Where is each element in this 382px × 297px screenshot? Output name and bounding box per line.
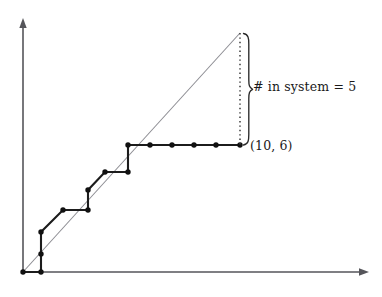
arrival-rate-line: [23, 33, 240, 272]
marker-dot-2: [38, 251, 43, 256]
marker-dot-1: [38, 269, 43, 274]
marker-dot-12: [191, 142, 196, 147]
marker-dot-13: [213, 142, 218, 147]
departure-step-path: [23, 145, 240, 272]
x-axis-arrow-icon: [359, 268, 369, 275]
marker-dot-6: [85, 187, 90, 192]
queueing-diagram-figure: # in system = 5 (10, 6): [0, 0, 382, 297]
curly-brace-icon: [244, 34, 253, 146]
marker-dot-4: [60, 207, 65, 212]
marker-origin: [20, 269, 25, 274]
marker-dot-5: [85, 207, 90, 212]
marker-dot-10: [147, 142, 152, 147]
event-markers-group: [20, 142, 242, 274]
endpoint-coordinate-label: (10, 6): [250, 138, 293, 153]
plot-canvas: [0, 0, 382, 297]
marker-dot-11: [169, 142, 174, 147]
queue-length-annotation-label: # in system = 5: [253, 79, 356, 94]
marker-dot-3: [38, 229, 43, 234]
marker-dot-8: [125, 169, 130, 174]
marker-dot-7: [102, 169, 107, 174]
marker-dot-9: [125, 142, 130, 147]
y-axis-arrow-icon: [19, 18, 26, 28]
